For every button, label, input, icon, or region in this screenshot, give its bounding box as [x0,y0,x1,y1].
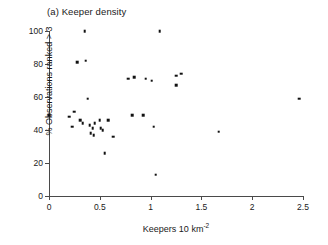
y-axis-label: % Observations ranked > 3 [44,0,54,164]
data-point [76,61,79,64]
x-tick-1.5 [201,196,202,200]
data-point [92,134,95,137]
data-point [91,127,94,130]
data-point [83,30,86,33]
data-point [68,116,71,119]
data-point [152,125,155,128]
panel-title: (a) Keeper density [47,6,126,17]
data-point [93,122,96,125]
data-point [73,111,76,114]
data-point [175,74,178,77]
x-axis-line [49,196,303,197]
scatter-plot-figure: (a) Keeper density 020406080100 00.511.5… [0,0,328,245]
y-tick-label-100: 100 [29,27,43,36]
y-tick-label-80: 80 [34,60,43,69]
x-axis-label: Keepers 10 km-2 [49,222,303,234]
data-point [99,119,102,122]
data-point [81,122,84,125]
x-tick-0 [49,196,50,200]
data-point [86,97,89,100]
x-tick-2.5 [303,196,304,200]
data-point [298,97,301,100]
data-point [79,119,82,122]
data-point [107,119,110,122]
data-point [102,129,105,132]
data-point [88,124,91,127]
data-point [150,79,153,82]
x-tick-label-2: 2 [250,203,255,212]
data-point [154,173,157,176]
x-tick-label-1.5: 1.5 [195,203,207,212]
data-point [131,114,134,117]
data-point [180,73,183,76]
x-axis-label-exponent: -2 [203,222,209,229]
y-tick-label-40: 40 [34,126,43,135]
data-point [158,30,161,33]
x-tick-label-0.5: 0.5 [94,203,106,212]
data-point [142,114,145,117]
x-tick-1 [151,196,152,200]
data-point [175,84,178,87]
x-tick-0.5 [100,196,101,200]
data-point [217,130,220,133]
data-point [144,78,147,81]
y-tick-label-60: 60 [34,93,43,102]
data-point [133,76,136,79]
x-tick-label-2.5: 2.5 [297,203,309,212]
y-tick-label-0: 0 [38,192,43,201]
plot-area: 020406080100 00.511.522.5 [49,31,303,196]
data-point [104,152,107,155]
data-point [112,135,115,138]
x-axis-label-text: Keepers 10 km [143,224,204,234]
data-point [71,125,74,128]
x-tick-label-1: 1 [148,203,153,212]
y-tick-label-20: 20 [34,159,43,168]
data-point [84,59,87,62]
x-tick-label-0: 0 [47,203,52,212]
y-axis-label-wrapper: % Observations ranked > 3 [8,31,22,196]
data-point [127,78,130,81]
x-tick-2 [252,196,253,200]
